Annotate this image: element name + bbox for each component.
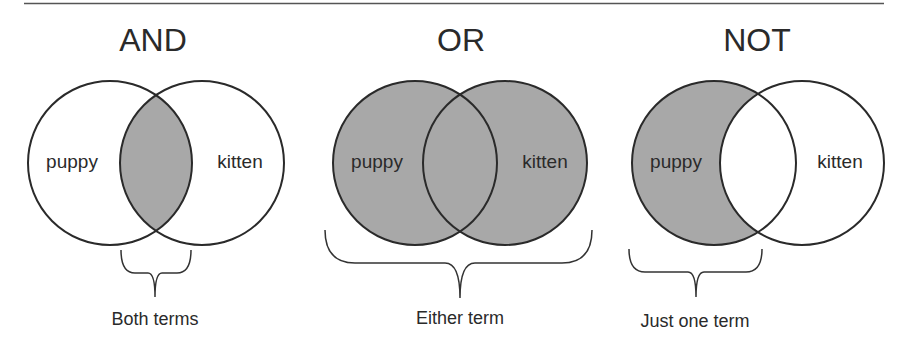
panel-caption: Either term bbox=[416, 308, 504, 328]
panel-caption: Just one term bbox=[640, 311, 749, 331]
right-term-label: kitten bbox=[217, 151, 262, 172]
right-term-label: kitten bbox=[817, 151, 862, 172]
brace-icon bbox=[121, 250, 191, 297]
panel-caption: Both terms bbox=[111, 309, 198, 329]
left-term-label: puppy bbox=[46, 151, 98, 172]
left-term-label: puppy bbox=[351, 151, 403, 172]
panel-and: AND puppy kitten Both terms bbox=[28, 22, 284, 329]
right-term-label: kitten bbox=[522, 151, 567, 172]
panel-not: NOT puppy kitten Just one term bbox=[629, 22, 884, 331]
brace-icon bbox=[325, 230, 592, 298]
panel-title: AND bbox=[119, 22, 187, 58]
left-term-label: puppy bbox=[650, 151, 702, 172]
boolean-venn-diagram: AND puppy kitten Both terms OR puppy kit… bbox=[0, 0, 909, 347]
panel-title: OR bbox=[437, 22, 485, 58]
panel-title: NOT bbox=[723, 22, 791, 58]
brace-icon bbox=[629, 249, 762, 297]
panel-or: OR puppy kitten Either term bbox=[325, 22, 592, 328]
